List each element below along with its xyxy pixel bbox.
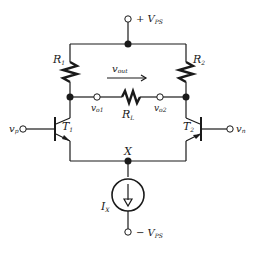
resistor-r2 (179, 62, 193, 82)
label-node-x: X (123, 145, 133, 158)
label-rl: RL (121, 108, 134, 121)
t2-emitter-arrow (193, 134, 201, 139)
terminal-vo1 (94, 94, 100, 100)
label-vo1: vo1 (91, 103, 104, 113)
label-vps-pos: + VPS (136, 13, 163, 25)
label-ix: IX (100, 200, 110, 213)
label-r2: R2 (192, 53, 205, 66)
terminal-vps-neg (125, 229, 131, 235)
label-r1: R1 (52, 53, 65, 66)
circuit-diagram: + VPS R1 R2 vout vo1 vo2 RL T1 T2 vp vn … (0, 0, 264, 254)
t1-emitter-arrow (62, 135, 70, 141)
label-vn: vn (236, 123, 246, 134)
label-vp: vp (9, 123, 19, 135)
terminal-vo2 (157, 94, 163, 100)
label-vo2: vo2 (154, 103, 167, 113)
resistor-rl (122, 91, 140, 103)
label-vout: vout (112, 63, 128, 74)
terminal-vp (20, 126, 26, 132)
terminal-vn (227, 126, 233, 132)
label-vps-neg: − VPS (136, 227, 163, 239)
label-t1: T1 (62, 120, 73, 133)
terminal-vps-pos (125, 16, 131, 22)
label-t2: T2 (183, 120, 194, 133)
